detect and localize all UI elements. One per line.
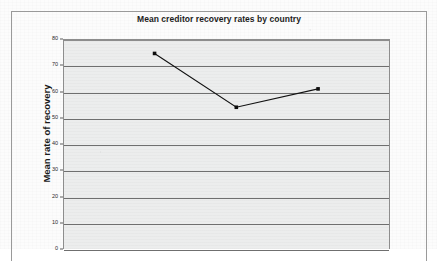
y-tick-label-20: 20 <box>52 194 58 200</box>
plot-region <box>63 39 390 249</box>
y-tick-mark-0 <box>60 249 63 250</box>
data-point-2 <box>235 105 239 109</box>
y-tick-mark-50 <box>60 117 63 118</box>
series-line <box>155 53 319 107</box>
data-point-3 <box>316 87 320 91</box>
series-markers <box>153 52 320 109</box>
y-tick-mark-60 <box>60 91 63 92</box>
y-tick-mark-10 <box>60 222 63 223</box>
y-tick-label-80: 80 <box>52 36 58 42</box>
data-series-layer <box>63 39 390 249</box>
y-tick-label-40: 40 <box>52 141 58 147</box>
y-tick-mark-80 <box>60 39 63 40</box>
data-point-1 <box>153 52 157 56</box>
y-tick-label-70: 70 <box>52 63 58 69</box>
y-tick-label-0: 0 <box>55 246 58 252</box>
y-tick-mark-70 <box>60 65 63 66</box>
y-axis-ticks: 80706050403020100 <box>0 0 63 210</box>
y-tick-label-60: 60 <box>52 89 58 95</box>
y-tick-mark-40 <box>60 144 63 145</box>
y-tick-label-30: 30 <box>52 168 58 174</box>
y-tick-label-10: 10 <box>52 220 58 226</box>
y-tick-mark-30 <box>60 170 63 171</box>
gridline-0 <box>64 250 389 251</box>
chart-title: Mean creditor recovery rates by country <box>11 14 427 24</box>
y-tick-label-50: 50 <box>52 115 58 121</box>
y-tick-mark-20 <box>60 196 63 197</box>
